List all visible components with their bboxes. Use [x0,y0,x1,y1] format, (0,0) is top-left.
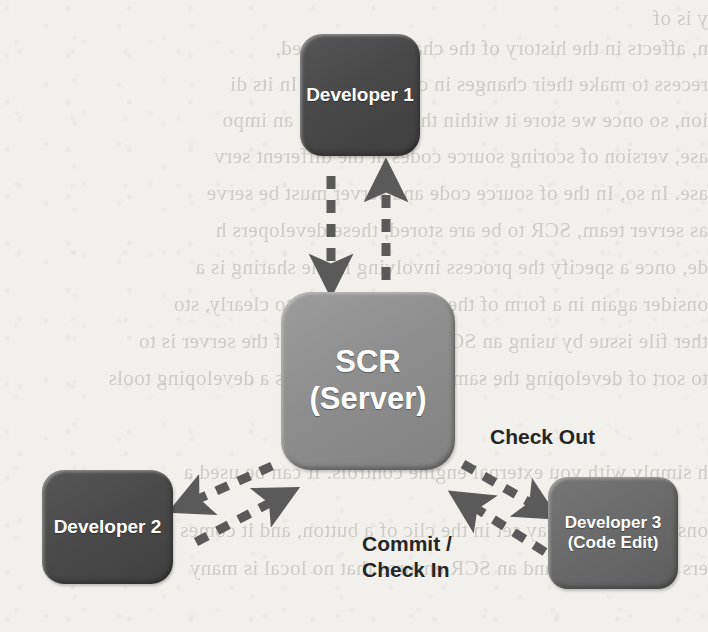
node-scr-server[interactable]: SCR (Server) [281,292,455,470]
bleed-line: ase. In so, In the of source code and se… [0,181,708,206]
edge-dev3-to-server [466,502,545,552]
bleed-line: y is of [0,6,708,31]
diagram-canvas: y is of n, affects in the history of the… [0,0,708,632]
edge-server-to-dev2 [187,466,272,504]
node-developer-2[interactable]: Developer 2 [42,470,173,584]
node-developer-1[interactable]: Developer 1 [300,34,420,156]
bleed-line: de, once a specify the process involving… [0,255,708,280]
bleed-line: as server team, SCR to be are stored, th… [0,218,708,243]
edge-label-check-out: Check Out [490,424,595,450]
edge-server-to-dev3 [463,464,541,509]
node-developer-3[interactable]: Developer 3 (Code Edit) [548,477,678,589]
node-developer-1-label: Developer 1 [300,84,420,106]
node-scr-server-label: SCR (Server) [281,344,455,417]
edge-dev2-to-server [196,497,281,542]
node-developer-3-label: Developer 3 (Code Edit) [548,513,678,553]
node-developer-2-label: Developer 2 [48,516,168,538]
edge-label-commit-check-in: Commit / Check In [362,531,452,582]
